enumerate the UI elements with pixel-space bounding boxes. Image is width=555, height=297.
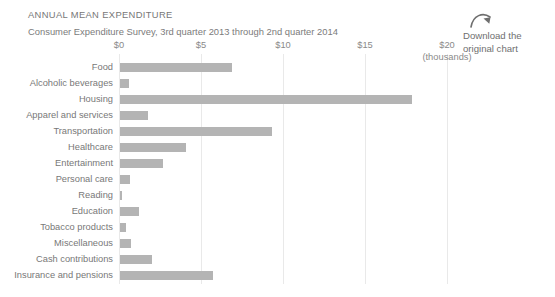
bar — [120, 223, 126, 232]
gridline — [201, 54, 202, 284]
category-label: Entertainment — [55, 158, 113, 169]
x-axis-tick-label: $20 — [439, 40, 455, 50]
x-axis-tick-label: $15 — [357, 40, 373, 50]
chart-header: ANNUAL MEAN EXPENDITURE Consumer Expendi… — [28, 8, 338, 38]
bar — [120, 207, 139, 216]
bar-chart: FoodAlcoholic beveragesHousingApparel an… — [0, 40, 555, 290]
bar — [120, 143, 186, 152]
page-subtitle: Consumer Expenditure Survey, 3rd quarter… — [28, 25, 338, 38]
category-label: Cash contributions — [36, 254, 113, 265]
x-axis-tick-label: $5 — [196, 40, 206, 50]
category-label: Miscellaneous — [54, 238, 113, 249]
gridline — [447, 54, 448, 284]
category-label: Personal care — [56, 174, 113, 185]
bar — [120, 79, 129, 88]
page-title: ANNUAL MEAN EXPENDITURE — [28, 8, 338, 21]
x-axis-tick-label: $10 — [275, 40, 291, 50]
bar — [120, 239, 131, 248]
category-label: Alcoholic beverages — [30, 78, 113, 89]
curved-arrow-icon — [469, 10, 547, 30]
chart-page: ANNUAL MEAN EXPENDITURE Consumer Expendi… — [0, 0, 555, 297]
category-label: Food — [92, 62, 113, 73]
gridline — [283, 54, 284, 284]
category-label: Housing — [79, 94, 113, 105]
category-label: Apparel and services — [26, 110, 113, 121]
bar — [120, 271, 213, 280]
plot-area: $0$5$10$15$20(thousands) — [119, 40, 555, 290]
bar — [120, 191, 122, 200]
x-axis-tick-label: $0 — [114, 40, 124, 50]
bar — [120, 255, 152, 264]
bar — [120, 127, 272, 136]
category-label: Transportation — [53, 126, 113, 137]
category-label: Healthcare — [68, 142, 113, 153]
bar — [120, 175, 130, 184]
category-label: Education — [72, 206, 113, 217]
bar — [120, 159, 163, 168]
x-axis-unit-note: (thousands) — [422, 52, 471, 62]
gridline — [365, 54, 366, 284]
bar — [120, 95, 412, 104]
gridline — [119, 54, 120, 284]
category-label: Insurance and pensions — [14, 270, 113, 281]
bar — [120, 111, 148, 120]
bar — [120, 63, 232, 72]
category-label: Tobacco products — [40, 222, 113, 233]
category-label: Reading — [78, 190, 113, 201]
